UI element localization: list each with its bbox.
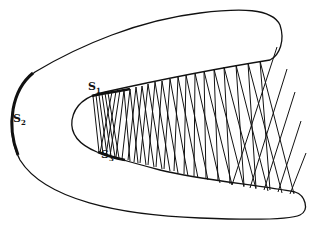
label-s1-main: S bbox=[88, 80, 96, 93]
label-s3-sub: 3 bbox=[109, 154, 114, 163]
label-s2: S2 bbox=[13, 112, 26, 127]
label-s1-sub: 1 bbox=[96, 86, 101, 95]
label-s3: S3 bbox=[101, 148, 114, 163]
billiard-diagram bbox=[0, 0, 315, 228]
label-s2-sub: 2 bbox=[21, 118, 26, 127]
label-s2-main: S bbox=[13, 112, 21, 125]
label-s3-main: S bbox=[101, 148, 109, 161]
trajectory-lines bbox=[93, 47, 306, 194]
label-s1: S1 bbox=[88, 80, 101, 95]
